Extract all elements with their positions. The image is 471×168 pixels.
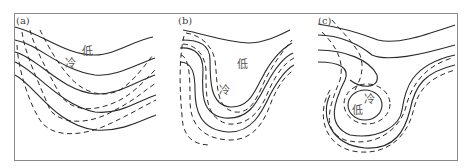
synoptic-diagram: (a) 低 冷 (b) 低 冷 (c)	[0, 0, 471, 168]
panel-a-cold-label: 冷	[65, 57, 76, 70]
panel-a-low-label: 低	[82, 45, 93, 58]
contour-line	[182, 40, 292, 107]
panel-c: (c) 冷 低	[318, 15, 455, 152]
contour-line	[15, 62, 156, 112]
panel-b: (b) 低 冷	[178, 15, 294, 145]
panel-c-low-label: 低	[352, 104, 363, 117]
panel-b-low-label: 低	[237, 58, 248, 71]
contour-line	[318, 50, 377, 86]
isotherm-line	[323, 70, 455, 152]
contour-line	[318, 24, 455, 41]
panel-b-label: (b)	[178, 15, 192, 26]
panel-c-cold-label: 冷	[364, 93, 375, 106]
panel-a-label: (a)	[16, 15, 30, 26]
panel-a: (a) 低 冷	[15, 15, 156, 134]
contour-line	[183, 30, 290, 43]
isotherm-line	[40, 30, 153, 94]
contour-line	[180, 62, 294, 132]
contour-line	[318, 55, 455, 136]
isotherm-line	[186, 33, 292, 112]
panel-b-cold-label: 冷	[219, 84, 230, 97]
